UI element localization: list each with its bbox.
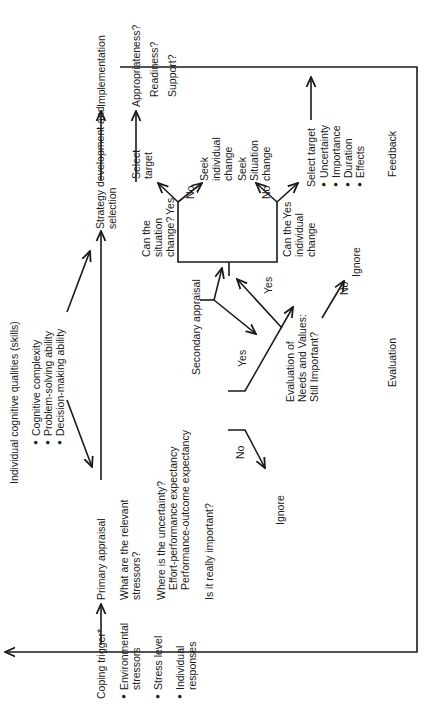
ignore-label-evaluation: Ignore bbox=[350, 247, 362, 277]
ignore-label-primary: Ignore bbox=[274, 495, 286, 525]
decision-making-ability: Decision-making ability bbox=[54, 329, 66, 445]
coping-process-diagram: Coping trigger* Environmental stressors … bbox=[0, 0, 431, 707]
problem-solving-ability: Problem-solving ability bbox=[42, 329, 54, 445]
primary-question-importance: Is it really important? bbox=[203, 503, 215, 600]
criterion-uncertainty: Uncertainty bbox=[318, 125, 330, 187]
secondary-appraisal-label: Secondary appraisal bbox=[190, 279, 202, 375]
cognitive-qualities-list: Cognitive complexity Problem-solving abi… bbox=[30, 329, 66, 445]
no-label-situation: No bbox=[184, 186, 196, 199]
yes-label-evaluation: Yes bbox=[262, 277, 274, 294]
check-readiness: Readiness? bbox=[148, 42, 160, 97]
evaluation-label: Evaluation bbox=[386, 338, 398, 387]
trigger-factor-stress-level: Stress level bbox=[152, 620, 164, 699]
select-target-situation: Select target bbox=[130, 139, 154, 179]
select-target-individual: Select target bbox=[305, 128, 317, 187]
criterion-duration: Duration bbox=[342, 125, 354, 187]
evaluation-needs-values: Evaluation of Needs and Values: Still Im… bbox=[284, 312, 320, 402]
strategy-development-label: Strategy development and selection bbox=[94, 99, 118, 229]
trigger-factor-environmental: Environmental stressors bbox=[118, 620, 142, 699]
seek-individual-change: Seek individual change bbox=[198, 121, 234, 181]
trigger-factors-list: Environmental stressors Stress level Ind… bbox=[118, 620, 198, 699]
seek-situation-change: Seek Situation change bbox=[236, 119, 272, 181]
yes-label-primary: Yes bbox=[236, 350, 248, 367]
no-label-primary: No bbox=[234, 446, 246, 459]
trigger-factor-individual-responses: Individual responses bbox=[174, 630, 198, 699]
implementation-label: Implementation bbox=[95, 35, 107, 107]
effort-performance-expectancy: Effort-performance expectancy bbox=[167, 447, 179, 590]
feedback-label: Feedback bbox=[386, 131, 398, 177]
no-label-individual: No bbox=[260, 186, 272, 199]
performance-outcome-expectancy: Performance-outcome expectancy bbox=[179, 430, 191, 590]
check-appropriateness: Appropriateness? bbox=[130, 25, 142, 107]
check-support: Support? bbox=[166, 54, 178, 97]
criterion-effects: Effects bbox=[354, 125, 366, 187]
yes-label-situation: Yes bbox=[164, 198, 176, 215]
cognitive-qualities-title: Individual cognitive qualities (skills) bbox=[8, 321, 20, 484]
primary-question-uncertainty: Where is the uncertainty? bbox=[155, 481, 167, 600]
primary-appraisal-label: Primary appraisal bbox=[95, 518, 107, 600]
yes-label-individual: Yes bbox=[281, 202, 293, 219]
target-criteria-list: Uncertainty Importance Duration Effects bbox=[318, 125, 366, 187]
no-label-evaluation: No bbox=[338, 282, 350, 295]
cognitive-complexity: Cognitive complexity bbox=[30, 329, 42, 445]
criterion-importance: Importance bbox=[330, 125, 342, 187]
primary-question-stressors: What are the relevant stressors? bbox=[118, 490, 142, 600]
coping-trigger-label: Coping trigger* bbox=[95, 629, 107, 699]
